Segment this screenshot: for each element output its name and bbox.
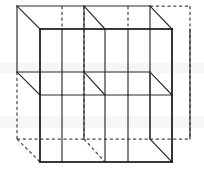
scan-artifact-band-lower xyxy=(0,116,204,128)
subdivided-cube-diagram xyxy=(0,0,204,174)
cube-figure-container xyxy=(0,0,204,174)
